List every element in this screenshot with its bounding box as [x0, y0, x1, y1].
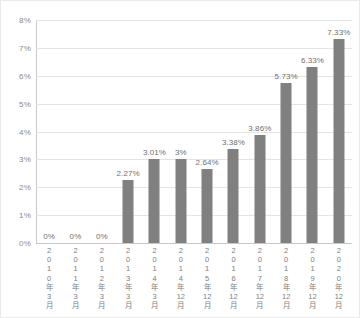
bar-item[interactable]: 0%	[89, 20, 115, 243]
x-axis-tick-label-char: 1	[227, 264, 241, 273]
x-axis-tick-label-char: 12	[227, 292, 241, 301]
bar-item[interactable]: 3.86%	[247, 20, 273, 243]
x-axis-tick-label-char: 3	[121, 292, 135, 301]
x-axis-tick-label-char: 3	[95, 292, 109, 301]
y-axis-tick-label: 4%	[19, 127, 31, 136]
x-axis-tick-label-char: 9	[306, 274, 320, 283]
x-axis-tick-label-char: 3	[42, 292, 56, 301]
bar-item[interactable]: 6.33%	[299, 20, 325, 243]
chart-border-left	[0, 0, 1, 318]
x-axis-tick-label-char: 1	[121, 264, 135, 273]
x-axis-tick-label-char: 0	[227, 255, 241, 264]
x-axis-tick-label-char: 0	[174, 255, 188, 264]
bar-item[interactable]: 7.33%	[326, 20, 352, 243]
bar-value-label: 0%	[70, 232, 82, 241]
bar[interactable]	[175, 159, 186, 243]
x-axis-tick-label-char: 5	[200, 274, 214, 283]
x-axis-tick-label-char: 1	[42, 264, 56, 273]
bar-item[interactable]: 2.64%	[194, 20, 220, 243]
bar-item[interactable]: 3.38%	[220, 20, 246, 243]
plot-area: 0%1%2%3%4%5%6%7%8% 0%0%0%2.27%3.01%3%2.6…	[36, 20, 352, 243]
x-axis-tick-label-char: 3	[69, 292, 83, 301]
x-axis-tick-label-char: 2	[332, 246, 346, 255]
x-axis-tick-label-char: 12	[253, 292, 267, 301]
bar-value-label: 6.33%	[301, 56, 324, 65]
x-axis-tick-label-char: 1	[148, 264, 162, 273]
bar[interactable]	[307, 67, 318, 243]
x-axis-tick-label-char: 1	[200, 264, 214, 273]
x-axis-tick-label-char: 年	[253, 283, 267, 292]
x-axis-tick-label-char: 2	[253, 246, 267, 255]
x-axis-tick-label-char: 年	[121, 283, 135, 292]
bar[interactable]	[254, 135, 265, 243]
bar-value-label: 3.38%	[222, 138, 245, 147]
x-axis-tick-label-char: 月	[279, 301, 293, 310]
bar-item[interactable]: 0%	[36, 20, 62, 243]
x-axis-tick-label-char: 0	[42, 274, 56, 283]
x-axis-tick-label-char: 1	[253, 264, 267, 273]
x-axis-tick-label-char: 0	[279, 255, 293, 264]
x-axis-tick-label: 2014年3月	[148, 246, 162, 310]
bar-item[interactable]: 3.01%	[141, 20, 167, 243]
x-axis-tick-label-char: 0	[332, 274, 346, 283]
y-axis-tick-label: 7%	[19, 43, 31, 52]
x-axis-tick-label: 2015年12月	[200, 246, 214, 310]
x-axis-tick-label-char: 月	[42, 301, 56, 310]
x-axis-tick-label-char: 年	[42, 283, 56, 292]
x-axis-tick-label: 2018年12月	[279, 246, 293, 310]
x-axis-tick-label-char: 0	[121, 255, 135, 264]
bar-item[interactable]: 0%	[62, 20, 88, 243]
x-axis-tick-label-char: 1	[279, 264, 293, 273]
bar-item[interactable]: 5.73%	[273, 20, 299, 243]
bar[interactable]	[281, 83, 292, 243]
x-axis-tick-label-char: 月	[95, 301, 109, 310]
x-axis-tick-label-char: 4	[174, 274, 188, 283]
bar[interactable]	[202, 169, 213, 243]
x-axis-tick-label: 2017年12月	[253, 246, 267, 310]
x-axis-tick-label-char: 月	[148, 301, 162, 310]
x-axis-tick-label-char: 2	[174, 246, 188, 255]
x-axis-tick-label-char: 12	[332, 292, 346, 301]
x-axis-tick-label: 2016年12月	[227, 246, 241, 310]
x-axis-tick-label-char: 2	[95, 274, 109, 283]
x-axis-tick-label-char: 0	[148, 255, 162, 264]
x-axis-tick-label-char: 7	[253, 274, 267, 283]
bar[interactable]	[333, 39, 344, 243]
y-axis-tick-label: 6%	[19, 71, 31, 80]
bar-item[interactable]: 2.27%	[115, 20, 141, 243]
x-axis-tick-label: 2014年12月	[174, 246, 188, 310]
x-axis-tick-label-char: 0	[200, 255, 214, 264]
y-axis-tick-label: 5%	[19, 99, 31, 108]
y-axis-tick-label: 2%	[19, 183, 31, 192]
x-axis-tick-label-char: 1	[69, 274, 83, 283]
y-axis-tick-label: 8%	[19, 16, 31, 25]
x-axis-tick-label-char: 年	[174, 283, 188, 292]
x-axis-tick-label-char: 2	[306, 246, 320, 255]
x-axis-tick-label-char: 3	[121, 274, 135, 283]
x-axis-tick-label-char: 年	[95, 283, 109, 292]
bar-value-label: 3%	[175, 148, 187, 157]
gridline	[36, 243, 352, 244]
x-axis-tick-label-char: 2	[95, 246, 109, 255]
bar-item[interactable]: 3%	[168, 20, 194, 243]
x-axis-tick-label-char: 年	[306, 283, 320, 292]
bar[interactable]	[228, 149, 239, 243]
x-axis-tick-label-char: 月	[174, 301, 188, 310]
x-axis-tick-label: 2020年12月	[332, 246, 346, 310]
bar-value-label: 3.01%	[143, 148, 166, 157]
x-axis-tick-label-char: 0	[253, 255, 267, 264]
x-axis-tick-label-char: 月	[69, 301, 83, 310]
x-axis-tick-label-char: 月	[200, 301, 214, 310]
bar[interactable]	[149, 159, 160, 243]
x-axis-tick-label-char: 1	[95, 264, 109, 273]
x-axis-tick-label-char: 1	[306, 264, 320, 273]
bar-value-label: 0%	[43, 232, 55, 241]
x-axis-tick-label-char: 2	[227, 246, 241, 255]
x-axis-tick-label-char: 8	[279, 274, 293, 283]
x-axis-tick-label-char: 月	[253, 301, 267, 310]
x-axis-tick-label-char: 0	[306, 255, 320, 264]
x-axis-tick-label-char: 12	[174, 292, 188, 301]
bar[interactable]	[123, 180, 134, 243]
x-axis-tick-label: 2019年12月	[306, 246, 320, 310]
x-axis-tick-label-char: 年	[148, 283, 162, 292]
